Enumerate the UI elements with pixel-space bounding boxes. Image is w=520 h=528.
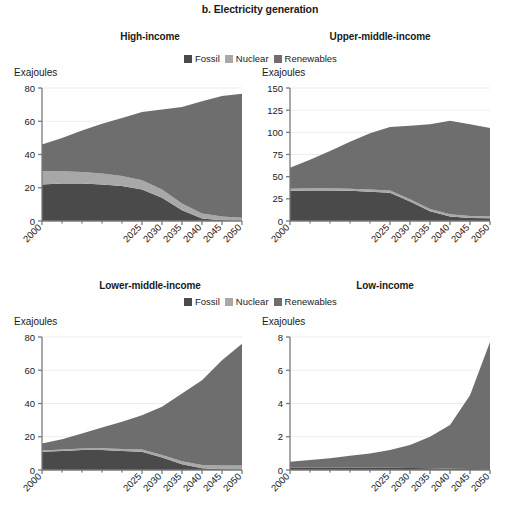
x-tick-label: 2035 bbox=[161, 222, 184, 245]
legend-swatch-nuclear bbox=[225, 55, 233, 63]
plot-lower-middle-income: 0204060802000202520302035204020452050 bbox=[0, 327, 248, 522]
x-tick-label: 2025 bbox=[121, 222, 144, 245]
x-tick-label-group: 2035 bbox=[161, 222, 184, 245]
legend-swatch-fossil bbox=[184, 55, 192, 63]
x-tick-label-group: 2045 bbox=[201, 471, 224, 494]
x-tick-label: 2030 bbox=[389, 222, 412, 245]
legend-entry-fossil-2: Fossil bbox=[184, 296, 220, 307]
x-tick-label: 2045 bbox=[201, 471, 224, 494]
legend-swatch-renewables-2 bbox=[274, 298, 282, 306]
electricity-generation-figure: b. Electricity generation High-income Up… bbox=[0, 0, 520, 528]
x-tick-label: 2040 bbox=[429, 471, 452, 494]
x-tick-label: 2045 bbox=[201, 222, 224, 245]
x-tick-label-group: 2000 bbox=[269, 471, 292, 494]
x-tick-label-group: 2030 bbox=[141, 471, 164, 494]
x-tick-label-group: 2030 bbox=[141, 222, 164, 245]
legend-swatch-renewables bbox=[274, 55, 282, 63]
y-tick-label: 40 bbox=[24, 149, 35, 160]
x-tick-label-group: 2040 bbox=[429, 471, 452, 494]
x-tick-label: 2030 bbox=[141, 471, 164, 494]
x-tick-label: 2040 bbox=[181, 471, 204, 494]
chart-panel-high-income: 0204060802000202520302035204020452050 bbox=[0, 78, 248, 273]
x-tick-label-group: 2040 bbox=[181, 471, 204, 494]
x-tick-label: 2045 bbox=[449, 222, 472, 245]
y-tick-label: 60 bbox=[24, 116, 35, 127]
x-tick-label-group: 2050 bbox=[221, 222, 244, 245]
x-tick-label-group: 2050 bbox=[221, 471, 244, 494]
x-tick-label: 2000 bbox=[21, 471, 44, 494]
legend-label-fossil: Fossil bbox=[195, 53, 220, 64]
area-renewables-lower-middle-income bbox=[42, 344, 242, 466]
area-renewables-low-income bbox=[290, 342, 490, 469]
y-tick-label: 75 bbox=[272, 149, 283, 160]
x-tick-label: 2050 bbox=[221, 222, 244, 245]
chart-panel-low-income: 024682000202520302035204020452050 bbox=[248, 327, 496, 522]
y-tick-label: 6 bbox=[278, 365, 283, 376]
legend-swatch-nuclear-2 bbox=[225, 298, 233, 306]
panel-title-high-income: High-income bbox=[60, 31, 240, 42]
x-tick-label-group: 2025 bbox=[369, 222, 392, 245]
y-tick-label: 100 bbox=[267, 127, 283, 138]
legend-label-renewables-2: Renewables bbox=[285, 296, 337, 307]
y-tick-label: 60 bbox=[24, 365, 35, 376]
plot-upper-middle-income: 0255075100125150200020252030203520402045… bbox=[248, 78, 496, 273]
y-tick-label: 2 bbox=[278, 431, 283, 442]
x-tick-label-group: 2045 bbox=[449, 471, 472, 494]
x-tick-label-group: 2000 bbox=[269, 222, 292, 245]
axis-unit-low-income: Exajoules bbox=[262, 316, 305, 327]
x-tick-label: 2035 bbox=[409, 222, 432, 245]
axis-unit-lower-middle-income: Exajoules bbox=[14, 316, 57, 327]
x-tick-label: 2025 bbox=[369, 471, 392, 494]
x-tick-label-group: 2045 bbox=[201, 222, 224, 245]
legend-entry-renewables: Renewables bbox=[274, 53, 337, 64]
x-tick-label: 2030 bbox=[141, 222, 164, 245]
panel-title-low-income: Low-income bbox=[300, 280, 470, 291]
legend-label-nuclear: Nuclear bbox=[236, 53, 269, 64]
x-tick-label-group: 2035 bbox=[409, 471, 432, 494]
x-tick-label: 2000 bbox=[269, 471, 292, 494]
y-tick-label: 40 bbox=[24, 398, 35, 409]
x-tick-label-group: 2045 bbox=[449, 222, 472, 245]
x-tick-label-group: 2050 bbox=[469, 471, 492, 494]
y-tick-label: 8 bbox=[278, 332, 283, 343]
axis-unit-high-income: Exajoules bbox=[14, 67, 57, 78]
chart-panel-upper-middle-income: 0255075100125150200020252030203520402045… bbox=[248, 78, 496, 273]
x-tick-label-group: 2030 bbox=[389, 222, 412, 245]
x-tick-label: 2025 bbox=[369, 222, 392, 245]
legend-bottom: Fossil Nuclear Renewables bbox=[184, 296, 337, 307]
x-tick-label-group: 2025 bbox=[121, 222, 144, 245]
y-tick-label: 80 bbox=[24, 332, 35, 343]
x-tick-label: 2000 bbox=[269, 222, 292, 245]
legend-entry-fossil: Fossil bbox=[184, 53, 220, 64]
x-tick-label: 2040 bbox=[181, 222, 204, 245]
x-tick-label-group: 2000 bbox=[21, 471, 44, 494]
x-tick-label: 2030 bbox=[389, 471, 412, 494]
legend-entry-nuclear: Nuclear bbox=[225, 53, 269, 64]
legend-swatch-fossil-2 bbox=[184, 298, 192, 306]
x-tick-label-group: 2025 bbox=[369, 471, 392, 494]
figure-title: b. Electricity generation bbox=[0, 3, 520, 15]
x-tick-label-group: 2025 bbox=[121, 471, 144, 494]
x-tick-label: 2035 bbox=[409, 471, 432, 494]
y-tick-label: 50 bbox=[272, 171, 283, 182]
x-tick-label-group: 2000 bbox=[21, 222, 44, 245]
axis-unit-upper-middle-income: Exajoules bbox=[262, 67, 305, 78]
x-tick-label-group: 2035 bbox=[409, 222, 432, 245]
x-tick-label-group: 2040 bbox=[181, 222, 204, 245]
legend-entry-renewables-2: Renewables bbox=[274, 296, 337, 307]
plot-low-income: 024682000202520302035204020452050 bbox=[248, 327, 496, 522]
legend-label-nuclear-2: Nuclear bbox=[236, 296, 269, 307]
x-tick-label: 2045 bbox=[449, 471, 472, 494]
legend-entry-nuclear-2: Nuclear bbox=[225, 296, 269, 307]
legend-top: Fossil Nuclear Renewables bbox=[184, 53, 337, 64]
x-tick-label-group: 2035 bbox=[161, 471, 184, 494]
x-tick-label-group: 2030 bbox=[389, 471, 412, 494]
chart-panel-lower-middle-income: 0204060802000202520302035204020452050 bbox=[0, 327, 248, 522]
x-tick-label-group: 2050 bbox=[469, 222, 492, 245]
x-tick-label-group: 2040 bbox=[429, 222, 452, 245]
panel-title-upper-middle-income: Upper-middle-income bbox=[280, 31, 480, 42]
legend-label-fossil-2: Fossil bbox=[195, 296, 220, 307]
x-tick-label: 2050 bbox=[469, 222, 492, 245]
y-tick-label: 80 bbox=[24, 83, 35, 94]
legend-label-renewables: Renewables bbox=[285, 53, 337, 64]
